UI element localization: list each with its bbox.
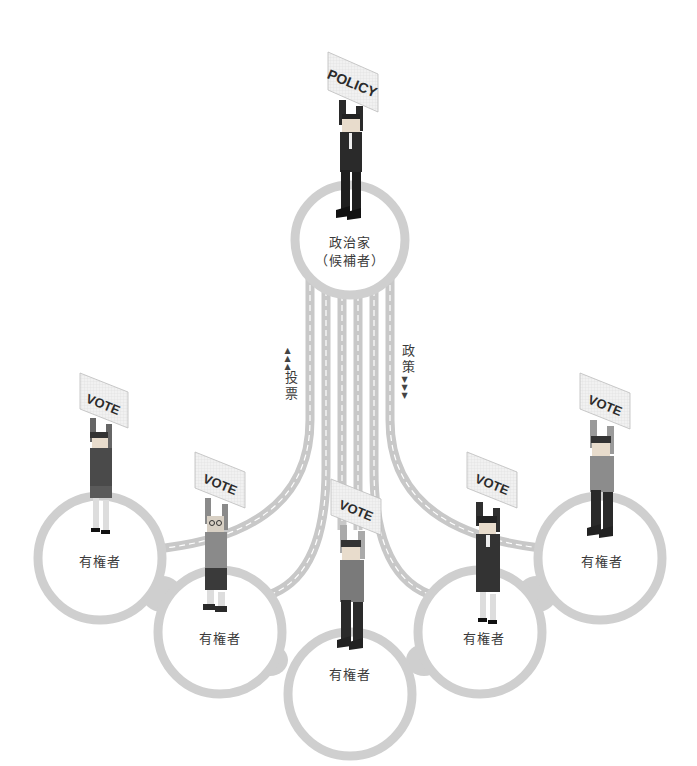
voter-figure-3: VOTE — [331, 479, 381, 650]
politician-label: 政治家 （候補者） — [315, 234, 385, 270]
vote-flow-label: ▲▲▲ 投 票 — [283, 346, 299, 402]
voter-label-5: 有権者 — [581, 553, 623, 571]
policy-flow-label: 政 策 ▼▼▼ — [400, 343, 416, 399]
voter-label-2: 有権者 — [199, 630, 241, 648]
voter-label-3: 有権者 — [329, 666, 371, 684]
policy-flow-char-2: 策 — [400, 359, 416, 375]
up-arrows-icon: ▲▲▲ — [283, 346, 292, 370]
voter-label-4: 有権者 — [463, 630, 505, 648]
vote-flow-char-2: 票 — [283, 386, 299, 402]
vote-flow-char-1: 投 — [283, 370, 299, 386]
politician-label-line1: 政治家 — [315, 234, 385, 252]
voter-label-1: 有権者 — [79, 553, 121, 571]
politician-voter-diagram: POLICY VOTE VOTE — [0, 0, 697, 766]
down-arrows-icon: ▼▼▼ — [400, 375, 409, 399]
politician-label-line2: （候補者） — [315, 252, 385, 270]
policy-flow-char-1: 政 — [400, 343, 416, 359]
voter-circle-3 — [288, 632, 412, 756]
diagram-canvas: POLICY VOTE VOTE — [0, 0, 697, 766]
